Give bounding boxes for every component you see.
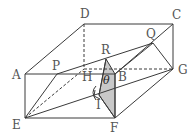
label-B: B xyxy=(118,70,127,84)
label-G: G xyxy=(178,63,188,77)
segment-QG xyxy=(153,43,173,69)
cuboid-diagram: D C Q R P A H B G I E F θ xyxy=(0,0,196,138)
segment-EP xyxy=(25,74,57,118)
label-I: I xyxy=(96,98,101,112)
label-F: F xyxy=(110,121,118,135)
label-H: H xyxy=(82,70,92,84)
label-E: E xyxy=(12,118,21,132)
segment-EH xyxy=(25,69,84,118)
label-R: R xyxy=(101,43,111,57)
label-A: A xyxy=(11,68,21,82)
label-C: C xyxy=(172,8,181,22)
label-theta: θ xyxy=(103,74,110,87)
label-Q: Q xyxy=(146,27,156,41)
label-P: P xyxy=(52,59,60,73)
label-D: D xyxy=(80,7,90,21)
